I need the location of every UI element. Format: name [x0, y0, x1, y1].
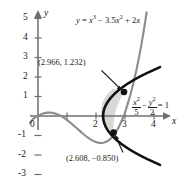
x-axis-label: x	[172, 116, 176, 126]
leader-line-upper	[102, 71, 121, 89]
cubic-eq-term1-exponent: 3	[93, 13, 96, 20]
x-tick-label-0: 0	[30, 119, 35, 129]
hyperbola-equation-label: x2 5 − y2 2 = 1	[131, 96, 169, 117]
y-tick-label-neg2: -2	[18, 149, 26, 159]
x-tick-label-4: 4	[151, 119, 156, 129]
y-tick-label-2: 2	[23, 71, 28, 81]
y-tick-label-4: 4	[23, 32, 28, 42]
intersection-point-lower	[110, 129, 117, 136]
hyperbola-fraction-y: y2 2	[148, 96, 157, 117]
y-tick-label-1: 1	[23, 90, 28, 100]
cubic-eq-minus: −	[98, 15, 103, 25]
hyperbola-frac-x-num-exponent: 2	[137, 95, 140, 102]
hyperbola-frac-y-num-exponent: 2	[153, 95, 156, 102]
intersection-label-upper: (2.966, 1.232)	[38, 58, 85, 67]
y-axis-arrowhead	[34, 10, 42, 18]
y-axis-label: y	[44, 8, 48, 18]
intersection-label-lower: (2.608, −0.850)	[66, 154, 118, 163]
cubic-eq-equals: =	[82, 15, 87, 25]
hyperbola-frac-y-denominator: 2	[148, 108, 157, 117]
hyperbola-eq-equals: = 1	[158, 100, 169, 110]
cubic-eq-term2-coef: 3.5	[105, 15, 116, 25]
curve-cubic	[30, 12, 147, 143]
hyperbola-frac-x-numerator: x2	[132, 96, 141, 108]
x-tick-label-3: 3	[122, 119, 127, 129]
hyperbola-frac-x-denominator: 5	[132, 108, 141, 117]
y-tick-label-5: 5	[23, 12, 28, 22]
cubic-eq-plus: +	[125, 15, 130, 25]
cubic-eq-term2-exponent: 2	[120, 13, 123, 20]
y-tick-label-neg1: -1	[18, 129, 26, 139]
hyperbola-eq-minus: −	[142, 100, 147, 110]
figure-canvas: y x 5 4 3 2 1 -1 -2 -3 0 2 3 4 y = x3 − …	[0, 0, 189, 185]
y-tick-label-3: 3	[23, 51, 28, 61]
cubic-equation-label: y = x3 − 3.5x2 + 2x	[76, 13, 140, 25]
cubic-eq-lhs: y	[76, 15, 80, 25]
leader-arrowhead-lower	[115, 134, 120, 140]
hyperbola-frac-y-numerator: y2	[148, 96, 157, 108]
cubic-eq-term3-base: x	[136, 15, 140, 25]
x-tick-label-2: 2	[93, 119, 98, 129]
hyperbola-fraction-x: x2 5	[132, 96, 141, 117]
y-tick-label-neg3: -3	[18, 168, 26, 178]
